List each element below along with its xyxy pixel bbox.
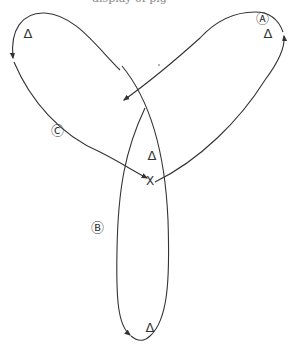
trefoil-loop-diagram: X Ⓐ Ⓑ Ⓒ Δ Δ Δ Δ xyxy=(0,0,301,358)
loop-c-label: Ⓒ xyxy=(51,123,64,138)
triangle-icon: Δ xyxy=(264,26,273,41)
loop-a-label: Ⓐ xyxy=(256,11,269,26)
triangle-icon: Δ xyxy=(146,320,155,335)
loop-a-right xyxy=(155,36,284,182)
loop-b-left xyxy=(117,108,145,335)
loop-b-right xyxy=(122,66,169,336)
dot-mark xyxy=(158,64,160,66)
loop-b-bottom xyxy=(131,336,150,340)
loop-b-label: Ⓑ xyxy=(91,220,104,235)
loop-c-lower xyxy=(14,62,147,178)
triangle-icon: Δ xyxy=(148,148,157,163)
crossing-x-label: X xyxy=(146,174,154,188)
loop-c-upper xyxy=(13,13,120,70)
triangle-icon: Δ xyxy=(24,26,33,41)
